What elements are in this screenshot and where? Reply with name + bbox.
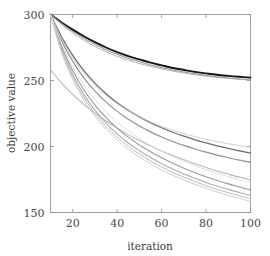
series-line bbox=[51, 15, 251, 196]
x-tick-label: 80 bbox=[199, 217, 213, 230]
series-line bbox=[51, 15, 251, 202]
x-tick-label: 100 bbox=[240, 217, 261, 230]
y-tick-label: 200 bbox=[24, 141, 45, 154]
x-axis-title: iteration bbox=[127, 240, 173, 252]
series-line bbox=[51, 15, 251, 80]
y-axis-tick-labels: 150200250300 bbox=[24, 9, 45, 220]
x-axis-tick-labels: 20406080100 bbox=[66, 217, 261, 230]
y-tick-label: 250 bbox=[24, 75, 45, 88]
x-tick-label: 20 bbox=[66, 217, 80, 230]
x-tick-label: 40 bbox=[110, 217, 124, 230]
chart-figure: 20406080100 150200250300 iteration objec… bbox=[0, 0, 270, 256]
y-axis-ticks bbox=[51, 15, 251, 213]
axis-box bbox=[51, 15, 251, 213]
y-tick-label: 300 bbox=[24, 9, 45, 22]
series-line bbox=[51, 15, 251, 81]
line-chart: 20406080100 150200250300 iteration objec… bbox=[0, 0, 270, 256]
series-line bbox=[51, 15, 251, 199]
x-tick-label: 60 bbox=[155, 217, 169, 230]
axes-frame bbox=[51, 15, 251, 213]
data-series-group bbox=[51, 15, 251, 202]
y-tick-label: 150 bbox=[24, 207, 45, 220]
y-axis-title: objective value bbox=[5, 73, 17, 153]
series-line bbox=[51, 15, 251, 78]
